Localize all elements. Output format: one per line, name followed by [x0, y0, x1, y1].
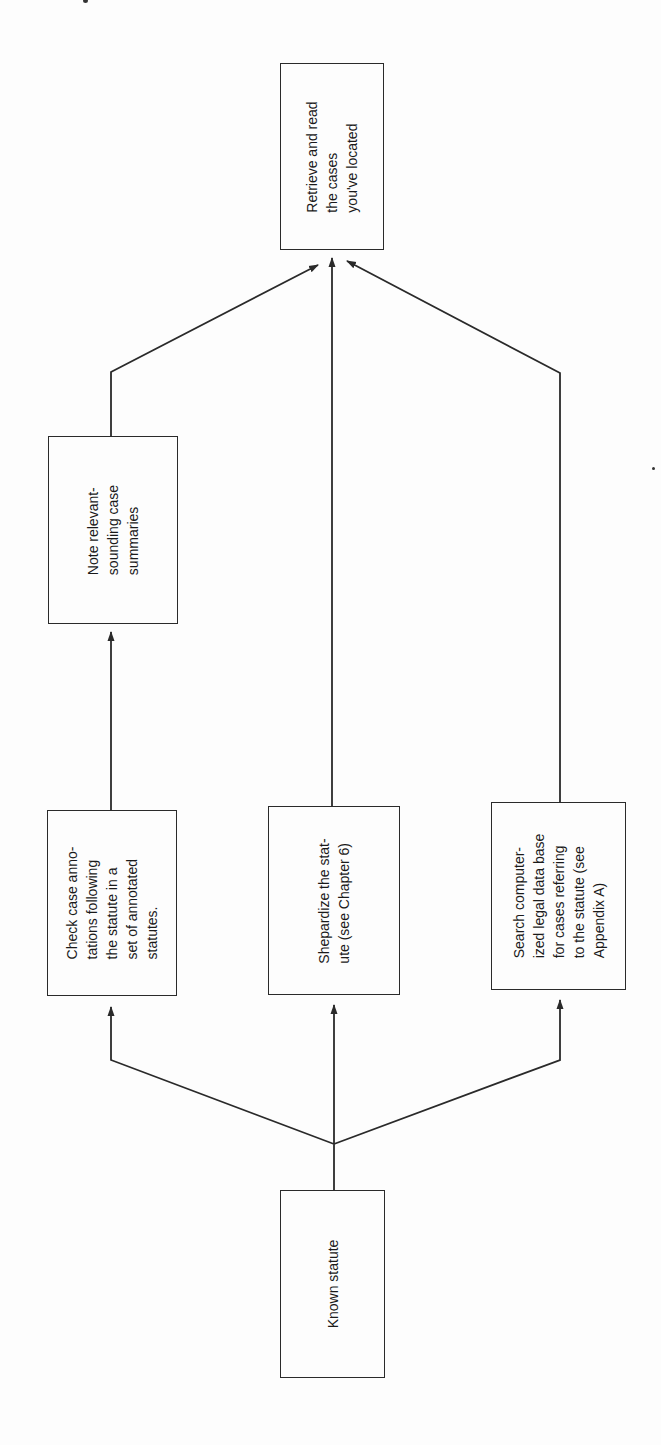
scan-artifact-dot	[83, 0, 88, 3]
edge-known_statute-to-check_annotations	[111, 1007, 334, 1190]
node-label: Shepardize the stat- ute (see Chapter 6)	[314, 838, 354, 963]
node-check-case-annotations: Check case anno- tations following the s…	[47, 810, 177, 996]
node-search-legal-database: Search computer- ized legal data base fo…	[491, 802, 626, 990]
node-retrieve-read-cases: Retrieve and read the cases you've locat…	[280, 63, 384, 250]
node-label: Note relevant- sounding case summaries	[83, 485, 143, 575]
node-label: Check case anno- tations following the s…	[62, 847, 162, 960]
node-shepardize-statute: Shepardize the stat- ute (see Chapter 6)	[268, 806, 400, 995]
flowchart-canvas: Known statute Check case anno- tations f…	[0, 0, 661, 1445]
edge-search_database-to-retrieve_cases	[347, 261, 560, 802]
node-label: Search computer- ized legal data base fo…	[509, 834, 609, 959]
edge-known_statute-to-search_database	[334, 1000, 560, 1144]
edge-note_summaries-to-retrieve_cases	[111, 265, 318, 436]
scan-artifact-dot	[652, 467, 655, 470]
node-label: Known statute	[323, 1240, 343, 1329]
node-note-case-summaries: Note relevant- sounding case summaries	[48, 436, 178, 624]
node-label: Retrieve and read the cases you've locat…	[302, 101, 362, 212]
node-known-statute: Known statute	[280, 1190, 385, 1378]
